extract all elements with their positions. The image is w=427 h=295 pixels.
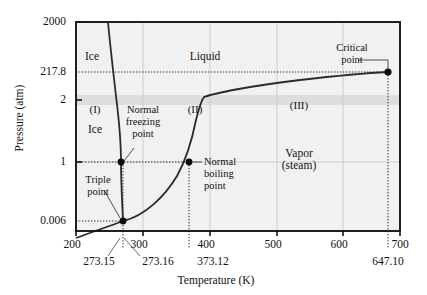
region-label-2: (II) <box>178 104 212 116</box>
annotation-triple-point-line2: point <box>71 186 125 197</box>
leader-27315 <box>108 238 120 256</box>
annotation-normal-freezing-line1: Normal <box>112 104 174 115</box>
phase-label-ice-top: Ice <box>75 50 109 62</box>
x-axis-title: Temperature (K) <box>151 274 281 286</box>
annotation-normal-freezing-line3: point <box>112 128 174 139</box>
annotation-triple-point-line1: Triple <box>71 174 125 185</box>
annotation-critical-point-line2: point <box>322 54 382 65</box>
x-tick-label-373-12: 373.12 <box>186 255 240 267</box>
x-tick-label-200: 200 <box>57 238 87 250</box>
point-normal-freezing <box>118 159 125 166</box>
x-tick-label-273-16: 273.16 <box>130 255 186 267</box>
region-label-1-name: Ice <box>79 123 111 135</box>
phase-label-vapor-sub: (steam) <box>267 159 331 171</box>
point-critical <box>384 68 391 75</box>
annotation-normal-boiling-line3: point <box>204 180 266 191</box>
annotation-critical-point-line1: Critical <box>322 42 382 53</box>
annotation-normal-freezing-line2: freezing <box>112 116 174 127</box>
annotation-normal-boiling-line1: Normal <box>204 156 266 167</box>
phase-label-vapor: Vapor <box>267 147 331 159</box>
x-tick-label-500: 500 <box>258 238 288 250</box>
phase-label-liquid: Liquid <box>176 50 234 62</box>
y-axis-title: Pressure (atm) <box>13 73 25 163</box>
y-tick-label-0-006: 0.006 <box>4 214 66 226</box>
x-tick-label-600: 600 <box>324 238 354 250</box>
y-tick-label-2000: 2000 <box>4 15 66 27</box>
x-tick-label-273-15: 273.15 <box>71 255 127 267</box>
region-label-1: (I) <box>79 104 111 116</box>
x-tick-label-647-10: 647.10 <box>361 255 415 267</box>
x-tick-label-700: 700 <box>385 238 415 250</box>
region-label-3: (III) <box>281 100 317 112</box>
annotation-normal-boiling-line2: boiling <box>204 168 266 179</box>
x-tick-label-300: 300 <box>124 238 154 250</box>
point-triple <box>120 218 127 225</box>
phase-diagram-figure: 2000 217.8 2 1 0.006 Pressure (atm) 200 … <box>0 0 427 295</box>
point-normal-boiling <box>186 159 193 166</box>
x-tick-label-400: 400 <box>191 238 221 250</box>
